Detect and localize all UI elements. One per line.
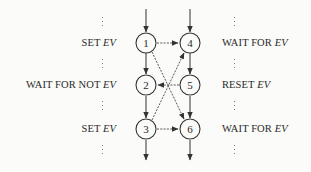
ellipsis-icon: [101, 59, 105, 70]
node-3: 3: [136, 119, 156, 139]
ellipsis-icon: [233, 145, 237, 156]
label-set-ev-2: SET EV: [81, 123, 116, 135]
label-variable: EV: [103, 37, 116, 48]
svg-text:4: 4: [187, 37, 193, 49]
ellipsis-icon: [233, 17, 237, 28]
label-wait-for-ev-1: WAIT FOR EV: [222, 37, 288, 49]
node-4: 4: [180, 33, 200, 53]
label-reset-ev: RESET EV: [222, 79, 270, 91]
svg-text:6: 6: [187, 123, 193, 135]
svg-text:3: 3: [143, 123, 149, 135]
label-variable: EV: [275, 123, 288, 134]
label-variable: EV: [275, 37, 288, 48]
svg-text:5: 5: [187, 79, 193, 91]
label-variable: EV: [257, 79, 270, 90]
svg-text:2: 2: [143, 79, 149, 91]
ellipsis-icon: [233, 101, 237, 112]
svg-text:1: 1: [143, 37, 149, 49]
label-text: SET: [81, 123, 103, 134]
label-variable: EV: [103, 79, 116, 90]
ellipsis-icon: [101, 101, 105, 112]
ellipsis-icon: [233, 59, 237, 70]
label-text: WAIT FOR NOT: [26, 79, 103, 90]
ellipsis-icon: [101, 145, 105, 156]
label-text: WAIT FOR: [222, 123, 275, 134]
node-1: 1: [136, 33, 156, 53]
label-text: WAIT FOR: [222, 37, 275, 48]
label-text: SET: [81, 37, 103, 48]
label-variable: EV: [103, 123, 116, 134]
node-6: 6: [180, 119, 200, 139]
synchronization-diagram: 1 2 3 4 5 6 SET EV WAIT FOR NOT EV SET E…: [0, 0, 311, 172]
label-wait-for-not-ev: WAIT FOR NOT EV: [26, 79, 116, 91]
label-wait-for-ev-2: WAIT FOR EV: [222, 123, 288, 135]
ellipsis-icon: [101, 17, 105, 28]
label-text: RESET: [222, 79, 257, 90]
label-set-ev-1: SET EV: [81, 37, 116, 49]
node-5: 5: [180, 75, 200, 95]
node-2: 2: [136, 75, 156, 95]
